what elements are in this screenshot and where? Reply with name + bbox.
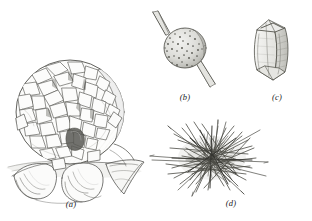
figure-b-spiny-sphere [150,4,220,90]
figure-a-plated-sphere [2,52,154,202]
figure-d-spicule-tangle [148,118,272,196]
figure-c-faceted-spindle [243,8,299,90]
specimen-plate: (a) [0,0,312,221]
figure-c-caption: (c) [252,92,302,102]
figure-b-caption: (b) [160,92,210,102]
figure-a-caption: (a) [46,199,96,209]
figure-d-caption: (d) [206,198,256,208]
